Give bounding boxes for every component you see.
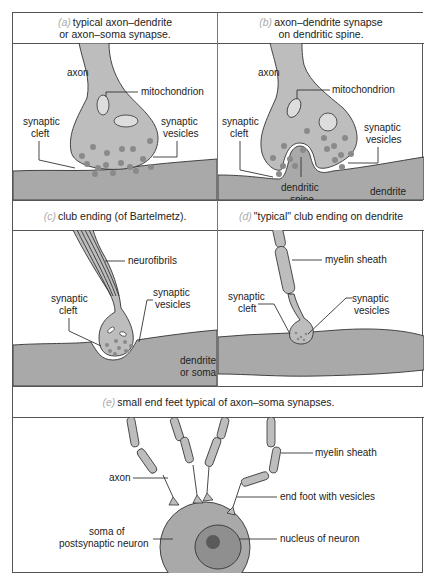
panel-e-illustration: axon myelin sheath end foot with vesicle… (13, 417, 424, 573)
panel-e-tag: (e) (103, 396, 116, 408)
panel-e-title: small end feet typical of axon–soma syna… (117, 396, 334, 408)
label-axon: axon (258, 67, 280, 78)
label-neurofibrils: neurofibrils (128, 255, 177, 266)
label-myelin-sheath: myelin sheath (315, 447, 377, 458)
label-synaptic-cleft: synaptic (228, 291, 265, 302)
label-synaptic-vesicles-2: vesicles (366, 134, 402, 145)
panel-d-tag: (d) (239, 210, 252, 222)
panel-c-title: club ending (of Bartelmetz). (58, 210, 186, 222)
label-synaptic-vesicles: synaptic (352, 293, 389, 304)
panel-d-illustration: myelin sheath synaptic cleft synaptic ve… (218, 230, 424, 386)
myelin-sheath-segments (272, 230, 296, 295)
label-synaptic-vesicles: synaptic (153, 287, 190, 298)
label-dendritic-spine: dendritic (281, 182, 319, 193)
label-axon: axon (109, 472, 131, 483)
label-synaptic-vesicles-2: vesicles (155, 299, 191, 310)
panel-e: (e)small end feet typical of axon–soma s… (13, 387, 424, 574)
mitochondrion-shape (114, 115, 138, 127)
label-synaptic-cleft-2: cleft (59, 305, 78, 316)
label-nucleus: nucleus of neuron (280, 533, 360, 544)
label-soma-2: postsynaptic neuron (59, 538, 149, 549)
panel-b-illustration: axon mitochondrion synaptic cleft synapt… (218, 43, 424, 200)
panel-d: (d)"typical" club ending on dendrite mye… (218, 201, 424, 386)
panel-b-tag: (b) (259, 16, 272, 28)
label-synaptic-cleft-2: cleft (238, 303, 257, 314)
label-soma: soma of (89, 526, 125, 537)
panel-c-tag: (c) (44, 210, 56, 222)
label-synaptic-vesicles: synaptic (161, 116, 198, 127)
mitochondrion-shape (97, 95, 109, 115)
nucleolus-shape (206, 535, 220, 549)
label-synaptic-vesicles-2: vesicles (163, 128, 199, 139)
label-end-foot: end foot with vesicles (280, 491, 375, 502)
panel-d-caption: (d)"typical" club ending on dendrite (218, 201, 424, 231)
label-dendrite-or-soma-2: or soma (180, 367, 217, 378)
label-synaptic-vesicles-2: vesicles (354, 305, 390, 316)
label-myelin-sheath: myelin sheath (325, 254, 387, 265)
label-mitochondrion: mitochondrion (141, 86, 204, 97)
synapse-figure: (a)typical axon–dendrite or axon–soma sy… (12, 12, 423, 573)
label-dendrite: dendrite (370, 186, 407, 197)
panel-e-caption: (e)small end feet typical of axon–soma s… (13, 387, 424, 418)
panel-c-caption: (c)club ending (of Bartelmetz). (13, 201, 217, 231)
panel-a-title-line1: typical axon–dendrite (73, 16, 172, 28)
nucleus-shape (195, 525, 241, 569)
label-synaptic-cleft: synaptic (23, 116, 60, 127)
panel-b-caption: (b)axon–dendrite synapse on dendritic sp… (218, 13, 424, 44)
mitochondrion-shape (319, 113, 337, 131)
label-synaptic-vesicles: synaptic (364, 122, 401, 133)
panel-a: (a)typical axon–dendrite or axon–soma sy… (13, 13, 217, 200)
axon-terminal (261, 43, 357, 170)
panel-a-title-line2: or axon–soma synapse. (59, 28, 170, 40)
panel-b-title-line2: on dendritic spine. (278, 28, 363, 40)
label-axon: axon (67, 67, 89, 78)
label-synaptic-cleft: synaptic (222, 116, 259, 127)
axon-terminal (70, 43, 158, 169)
panel-b: (b)axon–dendrite synapse on dendritic sp… (218, 13, 424, 200)
panel-c: (c)club ending (of Bartelmetz). neurofib… (13, 201, 217, 386)
label-dendritic-spine-2: spine (290, 194, 314, 200)
label-synaptic-cleft: synaptic (51, 293, 88, 304)
myelin-sheath-segments (126, 417, 281, 487)
panel-a-tag: (a) (58, 16, 71, 28)
panel-d-title: "typical" club ending on dendrite (254, 210, 403, 222)
label-mitochondrion: mitochondrion (332, 84, 395, 95)
dendrite-shape (218, 329, 424, 376)
panel-b-title-line1: axon–dendrite synapse (274, 16, 383, 28)
panel-a-caption: (a)typical axon–dendrite or axon–soma sy… (13, 13, 217, 44)
label-synaptic-cleft-2: cleft (31, 128, 50, 139)
panel-c-illustration: neurofibrils synaptic cleft synaptic ves… (13, 230, 217, 386)
panel-a-illustration: axon mitochondrion synaptic cleft synapt… (13, 43, 217, 200)
label-dendrite-or-soma: dendrite (180, 355, 217, 366)
label-synaptic-cleft-2: cleft (230, 128, 249, 139)
